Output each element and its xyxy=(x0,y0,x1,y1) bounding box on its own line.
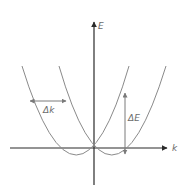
right-parabola-curve xyxy=(59,66,166,155)
delta-e-label: ΔE xyxy=(127,113,140,123)
left-parabola-curve xyxy=(22,66,129,155)
e-axis-label: E xyxy=(98,21,104,31)
k-axis-label: k xyxy=(172,143,178,153)
dispersion-diagram: Δk ΔE E k xyxy=(0,0,194,194)
delta-k-label: Δk xyxy=(42,105,55,115)
